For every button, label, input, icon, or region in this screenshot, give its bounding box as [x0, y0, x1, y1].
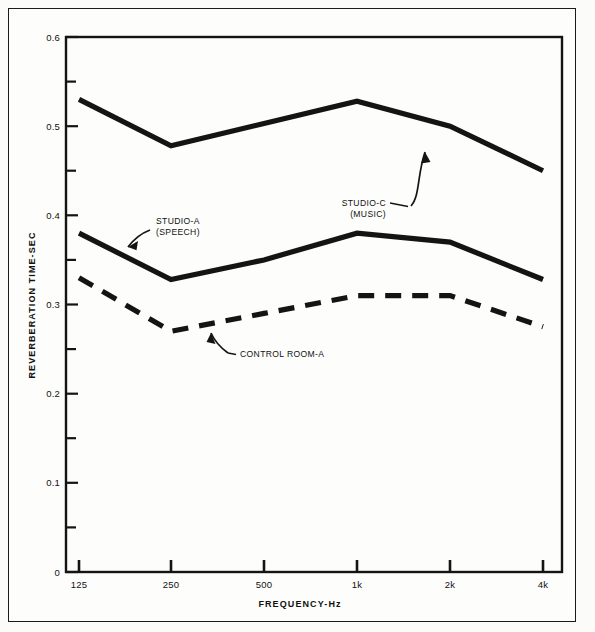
annotation-control-room-a: CONTROL ROOM-A: [207, 333, 325, 359]
x-tick-label-1k: 1k: [352, 579, 362, 590]
x-tick-label-4k: 4k: [538, 579, 548, 590]
x-tick-label-2k: 2k: [445, 579, 455, 590]
x-axis-ticks: [79, 560, 543, 572]
series-group: [79, 99, 543, 331]
y-tick-label-0.4: 0.4: [46, 210, 60, 221]
y-tick-label-0.1: 0.1: [46, 477, 60, 488]
annotation-studio-a: STUDIO-A (SPEECH): [128, 216, 200, 250]
x-axis-title: FREQUENCY-Hz: [258, 599, 341, 609]
annotation-studio-c-line2: (MUSIC): [350, 209, 386, 219]
y-tick-label-0.6: 0.6: [46, 32, 60, 43]
x-tick-label-250: 250: [163, 579, 179, 590]
x-tick-label-125: 125: [71, 579, 87, 590]
y-tick-label-0.2: 0.2: [46, 388, 60, 399]
x-axis-tick-labels: 125 250 500 1k 2k 4k: [71, 579, 548, 590]
series-line-studio-a: [79, 233, 543, 279]
y-tick-label-0.5: 0.5: [46, 121, 60, 132]
y-tick-label-0: 0: [55, 567, 60, 578]
y-axis-ticks: [66, 37, 78, 572]
series-line-studio-c: [79, 99, 543, 170]
x-tick-label-500: 500: [256, 579, 272, 590]
y-axis-tick-labels: 0 0.1 0.2 0.3 0.4 0.5 0.6: [46, 32, 60, 578]
annotation-studio-c-line1: STUDIO-C: [342, 198, 386, 208]
annotation-studio-a-line2: (SPEECH): [156, 227, 200, 237]
reverberation-time-chart: 0 0.1 0.2 0.3 0.4 0.5 0.6 REVERBERATION …: [0, 0, 595, 632]
series-line-control-room-a: [79, 278, 543, 332]
annotation-control-room-a-label: CONTROL ROOM-A: [240, 349, 324, 359]
annotation-studio-c: STUDIO-C (MUSIC): [342, 152, 431, 219]
annotation-studio-a-line1: STUDIO-A: [156, 216, 200, 226]
y-axis-title: REVERBERATION TIME-SEC: [27, 231, 37, 378]
y-tick-label-0.3: 0.3: [46, 299, 60, 310]
figure-page: 0 0.1 0.2 0.3 0.4 0.5 0.6 REVERBERATION …: [0, 0, 595, 632]
